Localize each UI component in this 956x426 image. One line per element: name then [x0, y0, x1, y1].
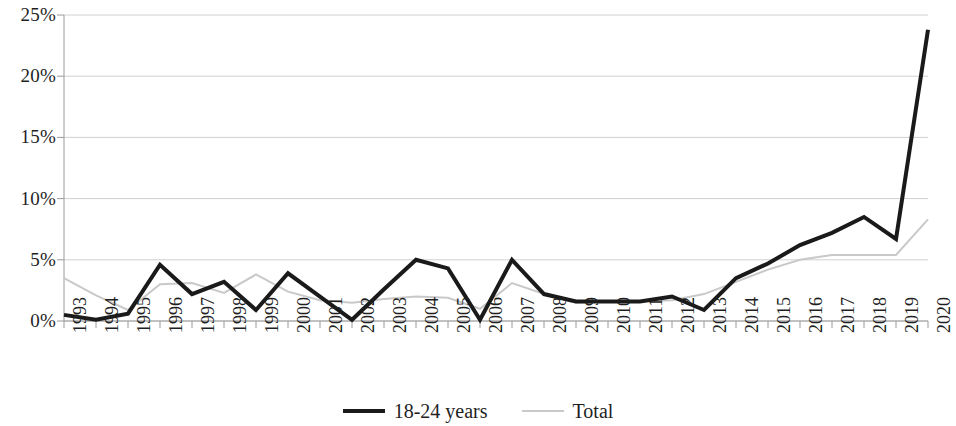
- chart-container: 0%5%10%15%20%25% 19931994199519961997199…: [0, 0, 956, 426]
- x-axis-tick-label: 2007: [519, 297, 537, 333]
- legend-item[interactable]: 18-24 years: [343, 401, 488, 421]
- line-chart-plot: [0, 0, 956, 426]
- y-axis-tick-label: 15%: [4, 127, 56, 146]
- x-axis-tick-label: 2003: [391, 297, 409, 333]
- data-series-lines: [64, 30, 928, 320]
- x-axis-tick-label: 1995: [135, 297, 153, 333]
- x-axis-tick-label: 2019: [903, 297, 921, 333]
- x-axis-tick-label: 2010: [615, 297, 633, 333]
- legend-line-swatch-icon: [343, 409, 385, 413]
- legend-item[interactable]: Total: [522, 401, 614, 421]
- legend-item-label: 18-24 years: [394, 401, 488, 421]
- gridlines: [64, 15, 928, 321]
- x-axis-tick-label: 1996: [167, 297, 185, 333]
- x-axis-tick-label: 2014: [743, 297, 761, 333]
- x-axis-tick-label: 1998: [231, 297, 249, 333]
- x-axis-tick-label: 1993: [71, 297, 89, 333]
- x-axis-tick-label: 2011: [647, 298, 665, 333]
- axis-lines: [64, 15, 928, 321]
- y-axis-labels: 0%5%10%15%20%25%: [0, 0, 56, 426]
- x-axis-tick-label: 2001: [327, 297, 345, 333]
- x-axis-tick-label: 2013: [711, 297, 729, 333]
- x-axis-tick-label: 2020: [935, 297, 953, 333]
- y-axis-ticks: [57, 15, 64, 321]
- x-axis-tick-label: 2005: [455, 297, 473, 333]
- y-axis-tick-label: 0%: [4, 311, 56, 330]
- x-axis-tick-label: 2016: [807, 297, 825, 333]
- x-axis-tick-label: 2008: [551, 297, 569, 333]
- x-axis-tick-label: 1994: [103, 297, 121, 333]
- x-axis-tick-label: 2009: [583, 297, 601, 333]
- y-axis-tick-label: 20%: [4, 66, 56, 85]
- x-axis-tick-label: 2002: [359, 297, 377, 333]
- x-axis-tick-label: 2012: [679, 297, 697, 333]
- y-axis-tick-label: 10%: [4, 189, 56, 208]
- x-axis-tick-label: 2015: [775, 297, 793, 333]
- x-axis-tick-label: 2000: [295, 297, 313, 333]
- x-axis-tick-label: 1997: [199, 297, 217, 333]
- x-axis-tick-label: 2017: [839, 297, 857, 333]
- legend-item-label: Total: [573, 401, 614, 421]
- legend-line-swatch-icon: [522, 410, 564, 412]
- y-axis-tick-label: 25%: [4, 5, 56, 24]
- y-axis-tick-label: 5%: [4, 250, 56, 269]
- chart-legend: 18-24 yearsTotal: [0, 396, 956, 426]
- x-axis-tick-label: 1999: [263, 297, 281, 333]
- x-axis-tick-label: 2006: [487, 297, 505, 333]
- x-axis-tick-label: 2004: [423, 297, 441, 333]
- series-line-18-24-years: [64, 30, 928, 320]
- x-axis-tick-label: 2018: [871, 297, 889, 333]
